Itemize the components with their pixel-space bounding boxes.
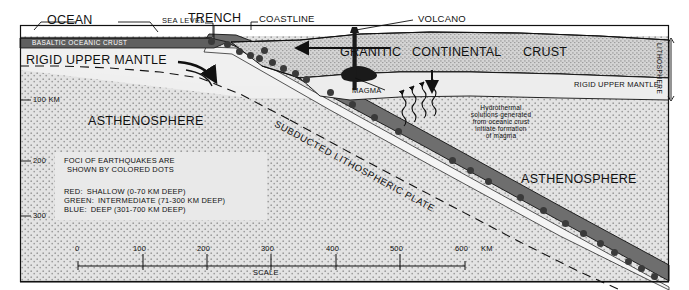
hydrothermal-line-4: initiate formation: [445, 125, 557, 132]
label-asthenosphere-left: ASTHENOSPHERE: [88, 114, 204, 128]
earthquake-dot: [256, 55, 263, 62]
earthquake-dot: [236, 48, 243, 55]
earthquake-dot: [580, 230, 587, 237]
earthquake-dot: [562, 220, 569, 227]
scale-caption: SCALE: [253, 268, 279, 277]
label-continental: CONTINENTAL: [412, 45, 501, 59]
earthquake-dot: [261, 47, 268, 54]
label-coastline: COASTLINE: [259, 13, 315, 24]
hydrothermal-line-2: solutions generated: [445, 111, 557, 118]
earthquake-dot: [611, 249, 618, 256]
earthquake-dot: [224, 41, 231, 48]
label-trench: TRENCH: [188, 11, 241, 25]
scale-tick-0: 0: [75, 244, 79, 253]
legend-red-name: RED:: [64, 187, 83, 196]
label-magma: MAGMA: [352, 86, 381, 95]
legend-entry-blue: BLUE: DEEP (301-700 KM DEEP): [64, 205, 225, 214]
legend-blue-desc: DEEP (301-700 KM DEEP): [91, 205, 186, 214]
earthquake-dot: [269, 59, 276, 66]
earthquake-dot: [597, 240, 604, 247]
legend-heading-1: FOCI OF EARTHQUAKES ARE: [64, 156, 225, 165]
scale-tick-200: 200: [197, 244, 210, 253]
earthquake-dot: [467, 167, 474, 174]
earthquake-dot: [349, 101, 356, 108]
earthquake-dot: [303, 76, 310, 83]
legend-blue-name: BLUE:: [64, 205, 87, 214]
legend-green-desc: INTERMEDIATE (71-300 KM DEEP): [98, 196, 225, 205]
label-lithosphere-bracket: LITHOSPHERE: [656, 43, 663, 94]
earthquake-dot: [540, 207, 547, 214]
scale-tick-100: 100: [133, 244, 146, 253]
depth-tick-200: 200: [33, 156, 46, 165]
earthquake-dot: [395, 128, 402, 135]
label-volcano: VOLCANO: [418, 13, 466, 24]
hydrothermal-line-1: Hydrothermal: [445, 104, 557, 111]
earthquake-dot: [638, 265, 645, 272]
hydrothermal-line-5: of magma: [445, 132, 557, 139]
legend-red-desc: SHALLOW (0-70 KM DEEP): [87, 187, 186, 196]
hydrothermal-annotation: Hydrothermal solutions generated from oc…: [445, 104, 557, 139]
earthquake-dot: [449, 157, 456, 164]
scale-tick-300: 300: [261, 244, 274, 253]
earthquake-dot: [208, 38, 215, 45]
label-basaltic-oceanic-crust: BASALTIC OCEANIC CRUST: [32, 39, 127, 46]
earthquake-dot: [625, 258, 632, 265]
earthquake-dot: [280, 65, 287, 72]
subduction-zone-diagram: OCEAN SEA LEVEL TRENCH COASTLINE VOLCANO…: [0, 0, 689, 290]
earthquake-dot: [292, 70, 299, 77]
legend-entry-red: RED: SHALLOW (0-70 KM DEEP): [64, 187, 225, 196]
label-ocean: OCEAN: [47, 13, 92, 27]
earthquake-legend: FOCI OF EARTHQUAKES ARE SHOWN BY COLORED…: [64, 156, 225, 214]
earthquake-dot: [485, 178, 492, 185]
label-granitic: GRANITIC: [340, 45, 401, 59]
earthquake-dot: [247, 52, 254, 59]
label-asthenosphere-right: ASTHENOSPHERE: [521, 172, 637, 186]
depth-tick-100: 100 KM: [33, 95, 60, 104]
scale-tick-500: 500: [390, 244, 403, 253]
earthquake-dot: [651, 273, 658, 280]
scale-unit: KM: [481, 244, 493, 253]
legend-heading-2: SHOWN BY COLORED DOTS: [64, 165, 225, 174]
label-rigid-upper-mantle-right: RIGID UPPER MANTLE: [574, 80, 659, 89]
hydrothermal-line-3: from oceanic crust: [445, 118, 557, 125]
label-crust: CRUST: [523, 45, 567, 59]
legend-green-name: GREEN:: [64, 196, 94, 205]
earthquake-dot: [517, 194, 524, 201]
label-rigid-upper-mantle-left: RIGID UPPER MANTLE: [26, 53, 167, 67]
depth-tick-300: 300: [33, 211, 46, 220]
earthquake-dot: [371, 114, 378, 121]
scale-tick-600: 600: [455, 244, 468, 253]
legend-entry-green: GREEN: INTERMEDIATE (71-300 KM DEEP): [64, 196, 225, 205]
scale-tick-400: 400: [326, 244, 339, 253]
earthquake-dot: [327, 89, 334, 96]
